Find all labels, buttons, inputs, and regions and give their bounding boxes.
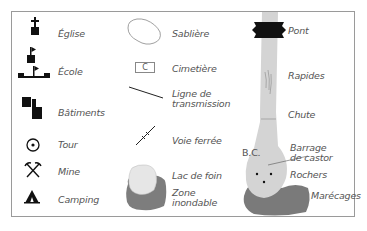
flood-zone-icon [124, 164, 168, 212]
cemetery-icon: C [135, 62, 155, 73]
label-batiments: Bâtiments [58, 108, 105, 118]
label-rapides: Rapides [288, 71, 325, 81]
label-ligne-transmission: Ligne de transmission [172, 89, 230, 109]
label-ecole: École [58, 67, 83, 77]
railway-icon [135, 124, 157, 146]
tower-icon [26, 138, 40, 152]
church-icon [28, 17, 42, 37]
label-cimetiere: Cimetière [172, 64, 217, 74]
buildings-icon [22, 97, 44, 121]
camping-icon [24, 190, 40, 204]
label-sabliere: Sablière [172, 29, 209, 39]
label-chute: Chute [288, 110, 315, 120]
mine-icon [24, 162, 42, 178]
label-barrage-castor: Barrage de castor [290, 143, 333, 163]
school-icon [16, 47, 52, 87]
label-zone-inondable: Zone inondable [172, 188, 217, 208]
label-bc: B.C. [242, 148, 260, 158]
label-camping: Camping [58, 195, 99, 205]
label-tour: Tour [58, 140, 78, 150]
label-voie-ferree: Voie ferrée [172, 136, 222, 146]
sandpit-icon [126, 18, 162, 46]
label-eglise: Église [58, 29, 85, 39]
power-line-icon [129, 86, 165, 100]
label-rochers: Rochers [290, 170, 327, 180]
label-mine: Mine [58, 167, 80, 177]
label-marecages: Marécages [311, 191, 361, 201]
label-pont: Pont [288, 26, 309, 36]
label-lac-de-foin: Lac de foin [172, 171, 222, 181]
